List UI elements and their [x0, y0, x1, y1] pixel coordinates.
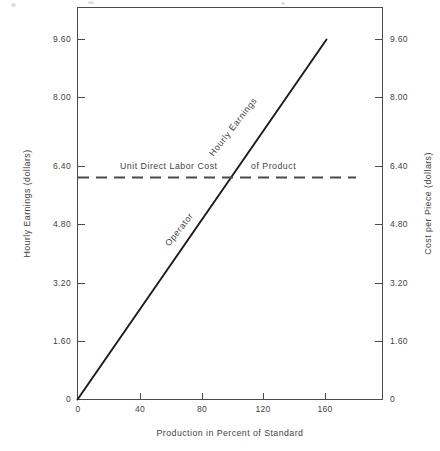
y-axis-tick: [78, 283, 85, 284]
x-axis-tick-label: 80: [197, 404, 207, 414]
x-axis-title: Production in Percent of Standard: [77, 428, 383, 438]
y-axis-tick-label: 8.00: [53, 92, 71, 102]
x-axis-tick-label: 120: [255, 404, 270, 414]
scan-artifact: [88, 1, 94, 4]
y-axis-tick-label: 3.20: [53, 278, 71, 288]
y-axis-tick-label: 6.40: [53, 161, 71, 171]
scan-artifact: [11, 3, 16, 7]
y2-axis-tick-label: 6.40: [390, 161, 408, 171]
y-axis-tick: [78, 97, 85, 98]
annotation-of-product: of Product: [249, 161, 298, 171]
y-axis-title: Hourly Earnings (dollars): [22, 7, 36, 400]
x-axis-tick: [325, 393, 326, 400]
y2-axis-tick-label: 0: [390, 394, 395, 404]
y2-axis-tick-label: 4.80: [390, 219, 408, 229]
y2-axis-tick-label: 9.60: [390, 34, 408, 44]
y2-axis-tick-label: 1.60: [390, 336, 408, 346]
y2-axis-tick: [375, 97, 382, 98]
y-axis-tick: [78, 39, 85, 40]
y-axis-tick-label: 9.60: [53, 34, 71, 44]
y2-axis-tick: [375, 166, 382, 167]
y-axis-tick-label: 4.80: [53, 219, 71, 229]
y-axis-tick-label: 1.60: [53, 336, 71, 346]
annotation-unit-direct-labor-cost: Unit Direct Labor Cost: [118, 161, 220, 171]
x-axis-tick-label: 160: [317, 404, 332, 414]
y-axis-tick: [78, 224, 85, 225]
y2-axis-tick-label: 3.20: [390, 278, 408, 288]
y-axis-tick-label: 0: [66, 394, 71, 404]
x-axis-tick: [202, 393, 203, 400]
scan-artifact: [281, 2, 285, 5]
plot-area: [77, 7, 383, 400]
x-axis-tick: [263, 393, 264, 400]
y-axis-tick: [78, 341, 85, 342]
chart-container: 9.60 8.00 6.40 4.80 3.20 1.60 0 9.60 8.0…: [0, 0, 440, 451]
y-axis-tick: [78, 166, 85, 167]
y2-axis-tick: [375, 341, 382, 342]
x-axis-tick: [140, 393, 141, 400]
y2-axis-tick-label: 8.00: [390, 92, 408, 102]
x-axis-tick-label: 0: [75, 404, 80, 414]
x-axis-tick-label: 40: [135, 404, 145, 414]
y2-axis-tick: [375, 224, 382, 225]
y2-axis-title: Cost per Piece (dollars): [423, 7, 437, 400]
y2-axis-tick: [375, 283, 382, 284]
y2-axis-tick: [375, 39, 382, 40]
